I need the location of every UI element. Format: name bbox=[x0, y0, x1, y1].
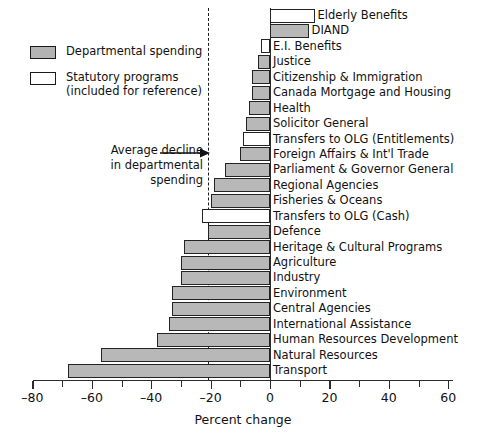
bar-row: Natural Resources bbox=[0, 348, 486, 363]
bar-fisheries-oceans bbox=[211, 194, 270, 208]
bar-row: Canada Mortgage and Housing bbox=[0, 85, 486, 100]
bar-label: Environment bbox=[273, 286, 346, 301]
bar-label: Agriculture bbox=[273, 255, 336, 270]
bar-row: Solicitor General bbox=[0, 116, 486, 131]
bar-row: Parliament & Governor General bbox=[0, 162, 486, 177]
x-tick-label: –80 bbox=[21, 390, 43, 405]
x-tick bbox=[211, 381, 212, 389]
bar-agriculture bbox=[181, 256, 270, 270]
x-tick bbox=[181, 381, 182, 387]
bar-row: Regional Agencies bbox=[0, 178, 486, 193]
x-tick-label: 0 bbox=[266, 390, 274, 405]
x-tick bbox=[419, 381, 420, 387]
bar-regional-agencies bbox=[214, 178, 270, 192]
bar-transfers-to-olg-entitlements bbox=[243, 132, 270, 146]
x-tick bbox=[151, 381, 152, 389]
bar-row: Justice bbox=[0, 54, 486, 69]
bar-label: Human Resources Development bbox=[273, 332, 458, 347]
bar-row: Transfers to OLG (Entitlements) bbox=[0, 132, 486, 147]
bar-diand bbox=[270, 24, 309, 38]
bar-foreign-affairs-int-l-trade bbox=[240, 147, 270, 161]
bar-elderly-benefits bbox=[270, 9, 315, 23]
bar-label: Citizenship & Immigration bbox=[273, 70, 422, 85]
bar-label: E.I. Benefits bbox=[273, 39, 342, 54]
bar-label: Fisheries & Oceans bbox=[273, 193, 382, 208]
x-tick bbox=[448, 381, 449, 389]
x-tick bbox=[329, 381, 330, 389]
bar-chart: Departmental spending Statutory programs… bbox=[0, 0, 486, 437]
bar-label: Canada Mortgage and Housing bbox=[273, 85, 451, 100]
x-tick bbox=[389, 381, 390, 389]
x-tick bbox=[359, 381, 360, 387]
bar-environment bbox=[172, 286, 270, 300]
bar-series: Elderly BenefitsDIANDE.I. BenefitsJustic… bbox=[0, 8, 486, 379]
bar-row: Central Agencies bbox=[0, 301, 486, 316]
bar-row: Heritage & Cultural Programs bbox=[0, 240, 486, 255]
bar-citizenship-immigration bbox=[252, 70, 270, 84]
bar-label: Justice bbox=[273, 54, 311, 69]
bar-label: Health bbox=[273, 101, 311, 116]
bar-label: Transfers to OLG (Cash) bbox=[273, 209, 409, 224]
bar-row: Foreign Affairs & Int'l Trade bbox=[0, 147, 486, 162]
x-tick bbox=[32, 381, 33, 389]
bar-natural-resources bbox=[101, 348, 270, 362]
bar-row: Industry bbox=[0, 270, 486, 285]
bar-row: E.I. Benefits bbox=[0, 39, 486, 54]
bar-label: Regional Agencies bbox=[273, 178, 378, 193]
bar-label: Central Agencies bbox=[273, 301, 371, 316]
x-tick-label: 60 bbox=[440, 390, 456, 405]
x-tick bbox=[92, 381, 93, 389]
bar-label: Heritage & Cultural Programs bbox=[273, 240, 442, 255]
bar-label: Defence bbox=[273, 224, 321, 239]
bar-row: Fisheries & Oceans bbox=[0, 193, 486, 208]
bar-row: Citizenship & Immigration bbox=[0, 70, 486, 85]
bar-row: Transport bbox=[0, 363, 486, 378]
plot-area: Elderly BenefitsDIANDE.I. BenefitsJustic… bbox=[0, 8, 486, 380]
bar-e-i-benefits bbox=[261, 39, 270, 53]
x-tick-label: –60 bbox=[81, 390, 103, 405]
x-axis-label: Percent change bbox=[0, 412, 486, 427]
bar-label: Transport bbox=[273, 363, 327, 378]
bar-label: International Assistance bbox=[273, 317, 411, 332]
x-tick-label: –20 bbox=[200, 390, 222, 405]
x-tick bbox=[62, 381, 63, 387]
bar-central-agencies bbox=[172, 302, 270, 316]
bar-row: Defence bbox=[0, 224, 486, 239]
bar-heritage-cultural-programs bbox=[184, 240, 270, 254]
bar-international-assistance bbox=[169, 317, 270, 331]
bar-row: Human Resources Development bbox=[0, 332, 486, 347]
bar-label: Industry bbox=[273, 270, 320, 285]
bar-row: Transfers to OLG (Cash) bbox=[0, 209, 486, 224]
bar-row: Agriculture bbox=[0, 255, 486, 270]
bar-label: Transfers to OLG (Entitlements) bbox=[273, 132, 454, 147]
bar-industry bbox=[181, 271, 270, 285]
x-tick bbox=[270, 381, 271, 389]
x-tick bbox=[122, 381, 123, 387]
bar-defence bbox=[208, 225, 270, 239]
bar-justice bbox=[258, 55, 270, 69]
bar-label: Foreign Affairs & Int'l Trade bbox=[273, 147, 429, 162]
bar-row: Health bbox=[0, 101, 486, 116]
x-tick bbox=[240, 381, 241, 387]
bar-label: Natural Resources bbox=[273, 348, 378, 363]
bar-label: Parliament & Governor General bbox=[273, 162, 453, 177]
x-tick-label: 20 bbox=[321, 390, 337, 405]
bar-health bbox=[249, 101, 270, 115]
bar-label: DIAND bbox=[312, 23, 350, 38]
bar-transport bbox=[68, 364, 270, 378]
bar-human-resources-development bbox=[157, 333, 270, 347]
bar-row: International Assistance bbox=[0, 317, 486, 332]
x-tick-label: –40 bbox=[140, 390, 162, 405]
bar-row: Environment bbox=[0, 286, 486, 301]
bar-parliament-governor-general bbox=[225, 163, 270, 177]
bar-label: Solicitor General bbox=[273, 116, 369, 131]
bar-transfers-to-olg-cash bbox=[202, 209, 270, 223]
bar-label: Elderly Benefits bbox=[318, 8, 408, 23]
x-tick-label: 40 bbox=[381, 390, 397, 405]
bar-canada-mortgage-and-housing bbox=[252, 86, 270, 100]
x-axis-line bbox=[33, 380, 453, 381]
bar-row: Elderly Benefits bbox=[0, 8, 486, 23]
bar-row: DIAND bbox=[0, 23, 486, 38]
x-tick bbox=[300, 381, 301, 387]
bar-solicitor-general bbox=[246, 117, 270, 131]
